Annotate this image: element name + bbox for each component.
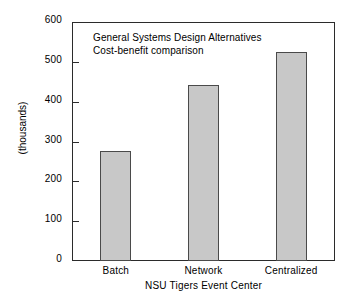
y-axis-tick-label: 600 (45, 15, 62, 25)
bars-layer (72, 22, 335, 261)
y-axis-tick-label: 400 (45, 95, 62, 105)
x-axis-tick-label: Batch (66, 265, 166, 276)
bar (276, 52, 307, 261)
bar (188, 85, 219, 261)
bar-chart: (thousands) 0100200300400500600 BatchNet… (0, 0, 353, 308)
x-axis-tick-label: Centralized (241, 265, 341, 276)
y-axis-title: (thousands) (18, 83, 28, 173)
y-axis-tick-label: 500 (45, 55, 62, 65)
x-axis-title: NSU Tigers Event Center (72, 280, 335, 291)
bar (100, 151, 131, 261)
y-axis-tick-label: 200 (45, 174, 62, 184)
y-axis-tick-label: 100 (45, 214, 62, 224)
annotation-line-2: Cost-benefit comparison (93, 44, 262, 57)
x-axis-tick-label: Network (154, 265, 254, 276)
annotation-line-1: General Systems Design Alternatives (93, 31, 262, 44)
chart-annotation: General Systems Design AlternativesCost-… (93, 31, 262, 57)
y-axis-tick-label: 0 (56, 254, 62, 264)
y-axis-tick-label: 300 (45, 135, 62, 145)
